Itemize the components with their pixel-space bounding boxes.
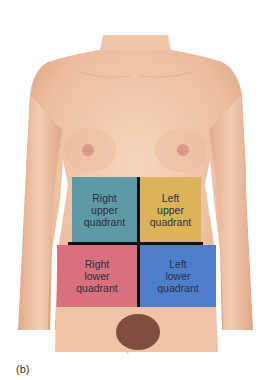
- left-nipple: [177, 144, 189, 156]
- left-lower-quadrant: Left lower quadrant: [140, 245, 216, 307]
- figure-label: (b): [16, 363, 29, 375]
- ruq-label: Right upper quadrant: [84, 192, 125, 228]
- left-upper-quadrant: Left upper quadrant: [140, 177, 201, 242]
- llq-label: Left lower quadrant: [157, 258, 198, 294]
- pubic-region: [116, 314, 160, 350]
- rlq-label: Right lower quadrant: [76, 258, 117, 294]
- right-upper-quadrant: Right upper quadrant: [72, 177, 137, 242]
- horizontal-divider: [68, 242, 203, 245]
- abdominal-quadrants-figure: Right upper quadrant Left upper quadrant…: [0, 0, 271, 380]
- right-nipple: [82, 144, 94, 156]
- right-lower-quadrant: Right lower quadrant: [57, 245, 137, 307]
- luq-label: Left upper quadrant: [150, 192, 191, 228]
